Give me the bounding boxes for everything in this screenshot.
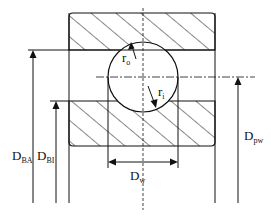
dpw-arrow-icon [235, 77, 242, 85]
dw-right-arrow-icon [170, 159, 178, 166]
dba-arrow-icon [30, 50, 37, 58]
dpw-label: Dpw [244, 128, 263, 145]
dba-label: DBA [12, 148, 33, 165]
dw-left-arrow-icon [108, 159, 116, 166]
bearing-diagram: ro ri DBA DBI Dpw Dw [0, 0, 271, 221]
dbi-label: DBI [37, 148, 55, 165]
dbi-arrow-icon [53, 101, 60, 109]
